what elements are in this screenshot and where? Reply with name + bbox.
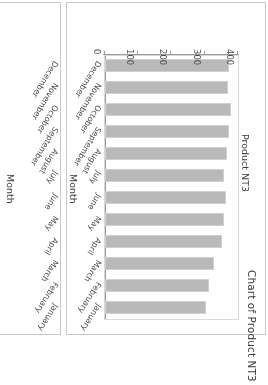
bar[interactable] [105, 147, 227, 160]
bar[interactable] [105, 235, 222, 248]
value-axis-title: Product NT3 [240, 134, 251, 192]
category-axis-title: Month [68, 174, 79, 204]
bar[interactable] [105, 301, 206, 314]
category-axis-tick-label-secondary: March [39, 258, 60, 283]
bar-row[interactable] [105, 81, 238, 94]
category-axis-tick-label-secondary: June [43, 192, 60, 212]
value-axis-tick-label: 0 [92, 49, 102, 54]
bar[interactable] [105, 257, 214, 270]
chart-panel-main[interactable]: Chart of Product NT3 Product NT3 Month 0… [66, 2, 266, 335]
bar-row[interactable] [105, 125, 238, 138]
value-axis-tick [237, 51, 238, 55]
bar-row[interactable] [105, 213, 238, 226]
chart-title: Chart of Product NT3 [246, 270, 258, 385]
category-axis-tick-label: June [86, 192, 103, 212]
bar-row[interactable] [105, 169, 238, 182]
category-axis-tick-label-secondary: May [43, 214, 59, 233]
bar-row[interactable] [105, 103, 238, 116]
value-axis-tick [204, 51, 205, 55]
bar[interactable] [105, 125, 229, 138]
bar[interactable] [105, 103, 231, 116]
bar[interactable] [105, 191, 226, 204]
value-axis-tick-label: 300 [192, 49, 202, 65]
chart-panel-secondary-clipped[interactable]: Month JanuaryFebruaryMarchAprilMayJuneJu… [0, 2, 61, 335]
value-axis-tick [137, 51, 138, 55]
bar-row[interactable] [105, 257, 238, 270]
value-axis-tick-label: 100 [125, 49, 135, 65]
category-axis-tick-label: April [85, 236, 102, 256]
bar-row[interactable] [105, 191, 238, 204]
plot-area[interactable] [104, 55, 239, 320]
bar-row[interactable] [105, 147, 238, 160]
value-axis-tick-label: 200 [159, 49, 169, 65]
category-axis-tick-label-secondary: April [42, 236, 59, 256]
bar-row[interactable] [105, 301, 238, 314]
bar-row[interactable] [105, 279, 238, 292]
value-axis-tick-label: 400 [225, 49, 235, 65]
value-axis-tick [104, 51, 105, 55]
bar[interactable] [105, 213, 224, 226]
bar[interactable] [105, 169, 224, 182]
category-axis-title-secondary: Month [5, 174, 16, 204]
value-axis-tick [171, 51, 172, 55]
bar-row[interactable] [105, 235, 238, 248]
bar[interactable] [105, 81, 228, 94]
category-axis-tick-label: March [82, 258, 103, 283]
category-axis-tick-label: May [86, 214, 102, 233]
bar[interactable] [105, 279, 209, 292]
